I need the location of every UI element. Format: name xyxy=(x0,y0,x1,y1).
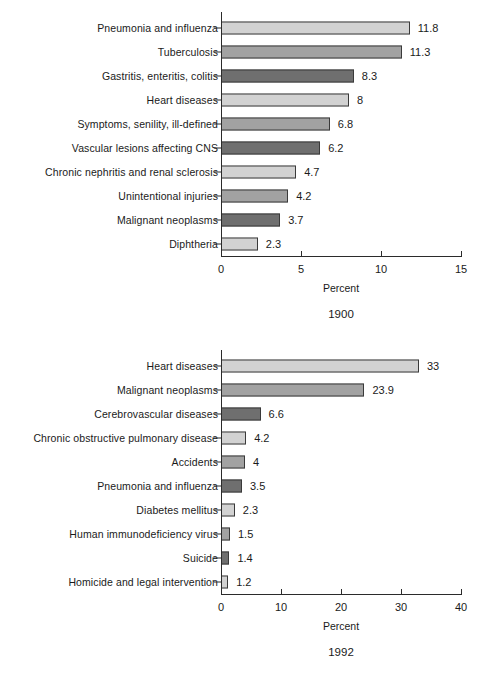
bar xyxy=(221,70,354,83)
category-tick xyxy=(214,534,221,535)
bar-value-label: 6.2 xyxy=(328,142,343,154)
category-label: Tuberculosis xyxy=(158,46,218,58)
category-tick xyxy=(214,510,221,511)
bar-value-label: 1.4 xyxy=(237,552,252,564)
bar-value-label: 6.8 xyxy=(338,118,353,130)
category-label: Pneumonia and influenza xyxy=(97,22,218,34)
bar xyxy=(221,22,410,35)
bar-value-label: 4.2 xyxy=(296,190,311,202)
x-axis-tick-label: 0 xyxy=(218,601,224,613)
bar xyxy=(221,552,229,565)
bar-row: Heart diseases8 xyxy=(0,88,496,112)
category-label: Symptoms, senility, ill-defined xyxy=(77,118,218,130)
category-label: Suicide xyxy=(183,552,218,564)
category-tick xyxy=(214,28,221,29)
bar-row: Cerebrovascular diseases6.6 xyxy=(0,402,496,426)
category-tick xyxy=(214,124,221,125)
bar-value-label: 23.9 xyxy=(372,384,393,396)
category-label: Vascular lesions affecting CNS xyxy=(72,142,218,154)
bar-value-label: 4.7 xyxy=(304,166,319,178)
category-tick xyxy=(214,582,221,583)
x-axis-title: Percent xyxy=(323,282,359,294)
chart-panel-1900: Pneumonia and influenza11.8Tuberculosis1… xyxy=(0,0,496,340)
bar xyxy=(221,480,242,493)
panel-caption-1992: 1992 xyxy=(328,646,354,658)
x-axis-tick-label: 30 xyxy=(395,601,407,613)
x-axis-tick xyxy=(221,251,222,256)
bar xyxy=(221,432,246,445)
bar-row: Homicide and legal intervention1.2 xyxy=(0,570,496,594)
bar-value-label: 6.6 xyxy=(269,408,284,420)
bar xyxy=(221,360,419,373)
x-axis-tick xyxy=(341,589,342,594)
category-label: Heart diseases xyxy=(147,94,218,106)
category-tick xyxy=(214,196,221,197)
bar-value-label: 1.2 xyxy=(236,576,251,588)
category-tick xyxy=(214,438,221,439)
bar-row: Symptoms, senility, ill-defined6.8 xyxy=(0,112,496,136)
bar-row: Tuberculosis11.3 xyxy=(0,40,496,64)
bar-row: Malignant neoplasms3.7 xyxy=(0,208,496,232)
bar-row: Vascular lesions affecting CNS6.2 xyxy=(0,136,496,160)
category-tick xyxy=(214,390,221,391)
bar-value-label: 33 xyxy=(427,360,439,372)
bar xyxy=(221,94,349,107)
x-axis-tick xyxy=(221,589,222,594)
x-axis-tick xyxy=(461,589,462,594)
bar-row: Chronic nephritis and renal sclerosis4.7 xyxy=(0,160,496,184)
x-axis-tick-label: 40 xyxy=(455,601,467,613)
bar xyxy=(221,576,228,589)
category-tick xyxy=(214,414,221,415)
category-label: Malignant neoplasms xyxy=(117,384,218,396)
category-tick xyxy=(214,100,221,101)
bar-row: Accidents4 xyxy=(0,450,496,474)
bar xyxy=(221,408,261,421)
category-tick xyxy=(214,148,221,149)
category-label: Malignant neoplasms xyxy=(117,214,218,226)
category-label: Accidents xyxy=(172,456,218,468)
category-tick xyxy=(214,486,221,487)
bar-row: Pneumonia and influenza3.5 xyxy=(0,474,496,498)
category-label: Cerebrovascular diseases xyxy=(94,408,218,420)
category-label: Homicide and legal intervention xyxy=(68,576,218,588)
bar-value-label: 11.8 xyxy=(418,22,439,34)
x-axis-tick-label: 0 xyxy=(218,263,224,275)
bar xyxy=(221,214,280,227)
bar-row: Human immunodeficiency virus1.5 xyxy=(0,522,496,546)
category-tick xyxy=(214,366,221,367)
category-label: Pneumonia and influenza xyxy=(97,480,218,492)
category-tick xyxy=(214,220,221,221)
bar-value-label: 2.3 xyxy=(266,238,281,250)
bar xyxy=(221,528,230,541)
bar xyxy=(221,166,296,179)
x-axis-tick-label: 15 xyxy=(455,263,467,275)
x-axis-title: Percent xyxy=(323,620,359,632)
bar xyxy=(221,118,330,131)
bar-row: Unintentional injuries4.2 xyxy=(0,184,496,208)
bar-value-label: 4 xyxy=(253,456,259,468)
chart-page: Pneumonia and influenza11.8Tuberculosis1… xyxy=(0,0,496,678)
x-axis-tick-label: 10 xyxy=(375,263,387,275)
bar-row: Pneumonia and influenza11.8 xyxy=(0,16,496,40)
category-label: Chronic obstructive pulmonary disease xyxy=(33,432,218,444)
bar-row: Suicide1.4 xyxy=(0,546,496,570)
y-axis-line xyxy=(221,12,222,256)
x-axis-line xyxy=(221,594,462,595)
bar-row: Malignant neoplasms23.9 xyxy=(0,378,496,402)
bar-row: Heart diseases33 xyxy=(0,354,496,378)
bar-value-label: 11.3 xyxy=(410,46,431,58)
category-tick xyxy=(214,244,221,245)
x-axis-tick xyxy=(281,589,282,594)
x-axis-tick-label: 5 xyxy=(298,263,304,275)
x-axis-tick xyxy=(461,251,462,256)
bar-rows-1900: Pneumonia and influenza11.8Tuberculosis1… xyxy=(0,16,496,256)
x-axis-tick-label: 10 xyxy=(275,601,287,613)
category-label: Unintentional injuries xyxy=(118,190,218,202)
bar xyxy=(221,384,364,397)
category-label: Heart diseases xyxy=(147,360,218,372)
category-tick xyxy=(214,558,221,559)
x-axis-tick xyxy=(381,251,382,256)
bar xyxy=(221,190,288,203)
category-label: Diabetes mellitus xyxy=(136,504,218,516)
x-axis-tick xyxy=(401,589,402,594)
